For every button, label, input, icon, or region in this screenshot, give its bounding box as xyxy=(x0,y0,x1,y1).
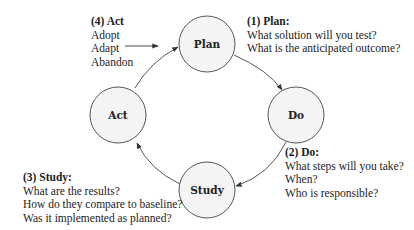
node-act-label: Act xyxy=(107,109,128,121)
annotation-do-line: Who is responsible? xyxy=(285,187,404,201)
node-study-label: Study xyxy=(190,184,224,196)
annotation-act-heading: (4) Act xyxy=(91,15,133,29)
annotation-study: (3) Study: What are the results? How do … xyxy=(23,171,182,225)
annotation-plan: (1) Plan: What solution will you test? W… xyxy=(247,15,400,56)
edge-plan-to-do xyxy=(234,55,282,90)
annotation-do: (2) Do: What steps will you take? When? … xyxy=(285,146,404,200)
annotation-study-line: What are the results? xyxy=(23,185,182,199)
node-do-label: Do xyxy=(288,109,304,121)
annotation-plan-line: What is the anticipated outcome? xyxy=(247,42,400,56)
annotation-do-line: When? xyxy=(285,173,404,187)
annotation-act: (4) Act Adopt Adapt Abandon xyxy=(91,15,133,69)
annotation-study-heading: (3) Study: xyxy=(23,171,182,185)
node-do: Do xyxy=(268,87,324,143)
annotation-plan-line: What solution will you test? xyxy=(247,29,400,43)
annotation-do-line: What steps will you take? xyxy=(285,160,404,174)
annotation-plan-heading: (1) Plan: xyxy=(247,15,400,29)
edge-do-to-study xyxy=(236,142,286,186)
annotation-do-heading: (2) Do: xyxy=(285,146,404,160)
annotation-act-line: Abandon xyxy=(91,56,133,70)
annotation-act-line: Adapt xyxy=(91,42,133,56)
annotation-study-line: Was it implemented as planned? xyxy=(23,212,182,226)
node-plan-label: Plan xyxy=(194,38,221,50)
edge-act-to-plan xyxy=(135,47,178,88)
node-study: Study xyxy=(179,162,235,218)
annotation-study-line: How do they compare to baseline? xyxy=(23,198,182,212)
node-act: Act xyxy=(90,87,146,143)
node-plan: Plan xyxy=(179,16,235,72)
annotation-act-line: Adopt xyxy=(91,29,133,43)
